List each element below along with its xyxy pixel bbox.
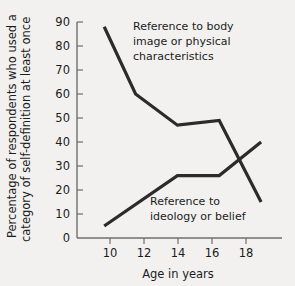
x-axis-title: Age in years xyxy=(142,267,214,281)
annotation-ideology: Reference to ideology or belief xyxy=(150,195,247,223)
x-tick-label-10: 10 xyxy=(103,246,118,260)
y-tick-label-90: 90 xyxy=(55,15,70,29)
y-tick-label-40: 40 xyxy=(55,135,70,149)
y-tick-label-10: 10 xyxy=(55,207,70,221)
y-tick-label-60: 60 xyxy=(55,87,70,101)
annotation-body-image: Reference to body image or physical char… xyxy=(133,20,234,63)
annotation-body-image-line-3: characteristics xyxy=(133,50,214,63)
y-axis xyxy=(77,22,83,238)
x-axis-tick-labels: 10 12 14 16 18 xyxy=(103,246,254,260)
line-chart: Percentage of respondents who used a cat… xyxy=(0,0,295,286)
chart-container: Percentage of respondents who used a cat… xyxy=(0,0,295,286)
x-tick-label-12: 12 xyxy=(137,246,152,260)
y-axis-title-line-1: Percentage of respondents who used a xyxy=(5,14,19,238)
annotation-body-image-line-2: image or physical xyxy=(133,35,231,48)
y-tick-label-50: 50 xyxy=(55,111,70,125)
y-tick-label-30: 30 xyxy=(55,159,70,173)
y-axis-title-line-2: category of self-definition at least onc… xyxy=(19,17,33,242)
y-tick-label-0: 0 xyxy=(63,231,70,245)
y-tick-label-70: 70 xyxy=(55,63,70,77)
y-axis-title: Percentage of respondents who used a cat… xyxy=(5,14,33,242)
annotation-ideology-line-1: Reference to xyxy=(150,195,220,208)
x-axis xyxy=(77,238,282,244)
y-axis-tick-labels: 90 80 70 60 50 40 30 20 10 0 xyxy=(55,15,70,245)
x-tick-label-18: 18 xyxy=(239,246,254,260)
annotation-body-image-line-1: Reference to body xyxy=(133,20,234,33)
annotation-ideology-line-2: ideology or belief xyxy=(150,210,247,223)
y-tick-label-20: 20 xyxy=(55,183,70,197)
x-tick-label-16: 16 xyxy=(205,246,220,260)
y-tick-label-80: 80 xyxy=(55,39,70,53)
x-tick-label-14: 14 xyxy=(171,246,186,260)
